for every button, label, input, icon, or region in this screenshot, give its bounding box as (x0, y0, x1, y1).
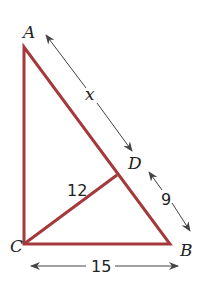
measure-label-cd: 12 (67, 181, 87, 200)
arrow-db-upper (149, 172, 162, 190)
measure-label-ad: x (85, 84, 95, 104)
arrow-ad-upper (46, 35, 86, 88)
measure-label-cb: 15 (91, 257, 111, 276)
triangle-abc (24, 47, 170, 244)
dimension-arrows (31, 35, 190, 266)
vertex-label-b: B (179, 240, 193, 260)
arrow-db-lower (172, 203, 190, 231)
measure-label-db: 9 (161, 190, 171, 209)
triangle (24, 47, 170, 244)
arrow-ad-lower (97, 103, 132, 151)
vertex-label-c: C (10, 236, 23, 256)
vertex-label-a: A (21, 22, 35, 42)
vertex-label-d: D (127, 153, 142, 173)
triangle-diagram: A D C B x 9 12 15 (0, 0, 211, 299)
